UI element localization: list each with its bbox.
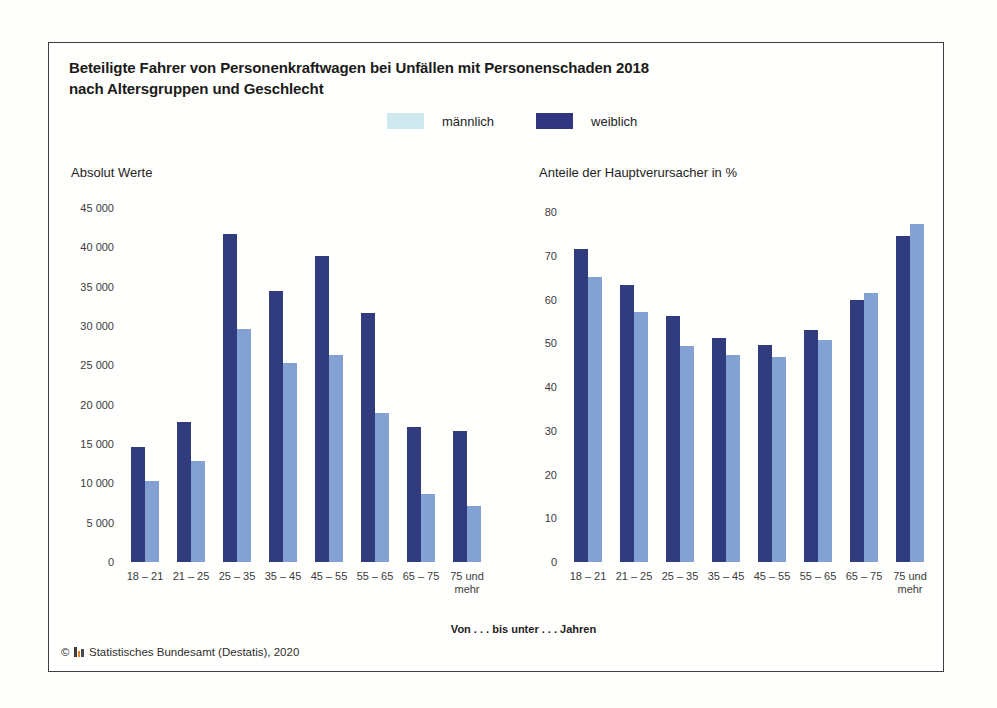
bar-group [749,345,795,562]
bar-group [306,256,352,562]
x-axis-label: 18 – 21 [122,570,168,596]
x-axis-label: 65 – 75 [398,570,444,596]
legend-item-weiblich: weiblich [536,113,637,129]
x-axis-label: 55 – 65 [352,570,398,596]
bar-group [398,427,444,562]
x-axis-label: 21 – 25 [611,570,657,596]
bar-weiblich [177,422,191,562]
y-tick-label: 60 [545,293,557,307]
y-tick-label: 30 [545,424,557,438]
chart-title-share: Anteile der Hauptverursacher in % [539,165,937,185]
x-axis-label: 18 – 21 [565,570,611,596]
chart-absolute-values: Absolut Werte 45 00040 00035 00030 00025… [69,165,493,596]
y-tick-label: 0 [108,555,114,569]
x-axis-label: 35 – 45 [703,570,749,596]
bar-group [214,234,260,562]
figure-title-line-1: Beteiligte Fahrer von Personenkraftwagen… [69,57,649,78]
bar-weiblich [315,256,329,562]
bar-männlich [375,413,389,562]
bar-weiblich [361,313,375,562]
x-axis-label: 21 – 25 [168,570,214,596]
bar-männlich [680,346,694,562]
bar-männlich [910,224,924,562]
y-axis: 45 00040 00035 00030 00025 00020 00015 0… [69,208,122,562]
legend-label-maennlich: männlich [442,114,494,129]
bar-männlich [818,340,832,562]
y-tick-label: 45 000 [80,201,114,215]
figure-title: Beteiligte Fahrer von Personenkraftwagen… [69,57,649,99]
x-axis-labels: 18 – 2121 – 2525 – 3535 – 4545 – 5555 – … [122,570,493,596]
bar-männlich [864,293,878,562]
x-axis-label: 55 – 65 [795,570,841,596]
x-axis-labels: 18 – 2121 – 2525 – 3535 – 4545 – 5555 – … [565,570,937,596]
bar-männlich [588,277,602,562]
x-axis-label: 75 und mehr [887,570,933,596]
y-tick-label: 0 [551,555,557,569]
bar-group [565,249,611,562]
y-axis: 80706050403020100 [535,212,565,562]
y-tick-label: 35 000 [80,280,114,294]
x-axis-label: 35 – 45 [260,570,306,596]
bar-weiblich [804,330,818,562]
y-tick-label: 10 [545,511,557,525]
bar-group [352,313,398,562]
y-tick-label: 50 [545,336,557,350]
bar-männlich [283,363,297,562]
chart-title-absolute: Absolut Werte [71,165,493,185]
destatis-logo-icon [74,646,84,657]
y-tick-label: 25 000 [80,358,114,372]
bar-weiblich [574,249,588,562]
bar-männlich [467,506,481,562]
y-tick-label: 15 000 [80,437,114,451]
bar-weiblich [896,236,910,562]
plot-area-absolute: 45 00040 00035 00030 00025 00020 00015 0… [69,208,493,562]
x-axis-label: 25 – 35 [214,570,260,596]
bar-weiblich [666,316,680,562]
x-axis-label: 65 – 75 [841,570,887,596]
bar-männlich [237,329,251,562]
bar-weiblich [407,427,421,562]
bar-group [260,291,306,562]
legend-swatch-maennlich [387,113,424,129]
chart-main-causer-share: Anteile der Hauptverursacher in % 807060… [535,165,937,596]
y-tick-label: 40 000 [80,240,114,254]
y-tick-label: 20 000 [80,398,114,412]
bar-group [887,224,933,562]
x-axis-label: 45 – 55 [749,570,795,596]
bar-männlich [421,494,435,562]
bar-group [795,330,841,562]
bar-group [841,293,887,562]
bar-group [611,285,657,562]
bar-weiblich [712,338,726,562]
bar-weiblich [453,431,467,562]
bar-männlich [329,355,343,562]
bar-group [703,338,749,562]
bar-group [168,422,214,562]
bar-männlich [191,461,205,562]
bar-männlich [634,312,648,562]
figure-title-line-2: nach Altersgruppen und Geschlecht [69,78,649,99]
bar-weiblich [850,300,864,562]
bar-group [657,316,703,562]
copyright-symbol: © [61,646,69,658]
y-tick-label: 10 000 [80,476,114,490]
y-tick-label: 20 [545,468,557,482]
bar-weiblich [131,447,145,562]
y-tick-label: 30 000 [80,319,114,333]
plot-area-share: 80706050403020100 [535,208,937,562]
x-axis-label: 25 – 35 [657,570,703,596]
bar-group [122,447,168,562]
y-tick-label: 80 [545,205,557,219]
bar-männlich [726,355,740,562]
bar-männlich [145,481,159,562]
legend-item-maennlich: männlich [387,113,494,129]
figure-frame: Beteiligte Fahrer von Personenkraftwagen… [48,42,944,672]
source-footer: © Statistisches Bundesamt (Destatis), 20… [61,646,299,658]
bars-area [122,208,490,562]
y-tick-label: 40 [545,380,557,394]
shared-x-axis-caption: Von . . . bis unter . . . Jahren [49,623,943,635]
bar-weiblich [758,345,772,562]
bar-weiblich [223,234,237,562]
y-tick-label: 5 000 [86,516,114,530]
bar-group [444,431,490,562]
